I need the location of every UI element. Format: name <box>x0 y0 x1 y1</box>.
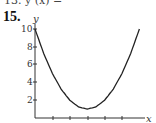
y-tick-label: 10 <box>21 24 33 34</box>
parabola-chart: x y 2 4 6 8 10 <box>0 0 156 123</box>
y-axis-label: y <box>32 13 39 24</box>
y-tick-label: 2 <box>27 95 33 105</box>
y-tick-label: 4 <box>27 77 33 87</box>
parabola-curve <box>35 29 139 109</box>
y-tick-label: 8 <box>27 42 33 52</box>
y-tick-label: 6 <box>27 59 33 69</box>
x-axis-label: x <box>146 113 152 123</box>
